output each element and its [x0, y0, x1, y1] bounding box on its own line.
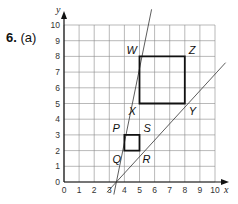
vertex-label-w: W: [127, 44, 139, 56]
x-tick-label: 6: [152, 185, 157, 195]
x-tick-label: 1: [77, 185, 82, 195]
x-tick-label: 0: [62, 185, 67, 195]
x-axis-label: x: [223, 184, 229, 195]
shape-wxyz: [140, 56, 185, 103]
steep-line: [114, 9, 152, 194]
vertex-label-q: Q: [112, 153, 121, 165]
x-tick-label: 4: [122, 185, 127, 195]
y-tick-label: 3: [55, 130, 60, 140]
y-tick-label: 4: [55, 114, 60, 124]
vertex-label-z: Z: [188, 44, 197, 56]
y-tick-label: 1: [55, 161, 60, 171]
x-tick-label: 5: [137, 185, 142, 195]
coordinate-grid: 012345678910012345678910xy PQRSWXYZ: [0, 0, 238, 204]
y-tick-label: 10: [51, 20, 61, 30]
vertex-label-x: X: [128, 105, 137, 117]
x-tick-label: 9: [198, 185, 203, 195]
vertex-label-y: Y: [189, 105, 197, 117]
construction-lines: [107, 9, 226, 194]
y-tick-label: 8: [55, 51, 60, 61]
x-tick-label: 8: [182, 185, 187, 195]
vertex-label-s: S: [144, 122, 152, 134]
x-tick-label: 2: [92, 185, 97, 195]
vertex-label-r: R: [143, 153, 151, 165]
y-axis-arrow-icon: [61, 11, 67, 19]
y-tick-label: 9: [55, 36, 60, 46]
shape-pqrs: [124, 135, 139, 151]
y-tick-label: 7: [55, 67, 60, 77]
y-tick-label: 0: [55, 177, 60, 187]
y-axis-label: y: [55, 4, 61, 15]
y-tick-label: 5: [55, 99, 60, 109]
vertex-label-p: P: [112, 122, 120, 134]
x-tick-label: 10: [210, 185, 220, 195]
y-tick-label: 6: [55, 83, 60, 93]
y-tick-label: 2: [55, 146, 60, 156]
shallow-line: [107, 63, 226, 193]
x-tick-label: 7: [167, 185, 172, 195]
